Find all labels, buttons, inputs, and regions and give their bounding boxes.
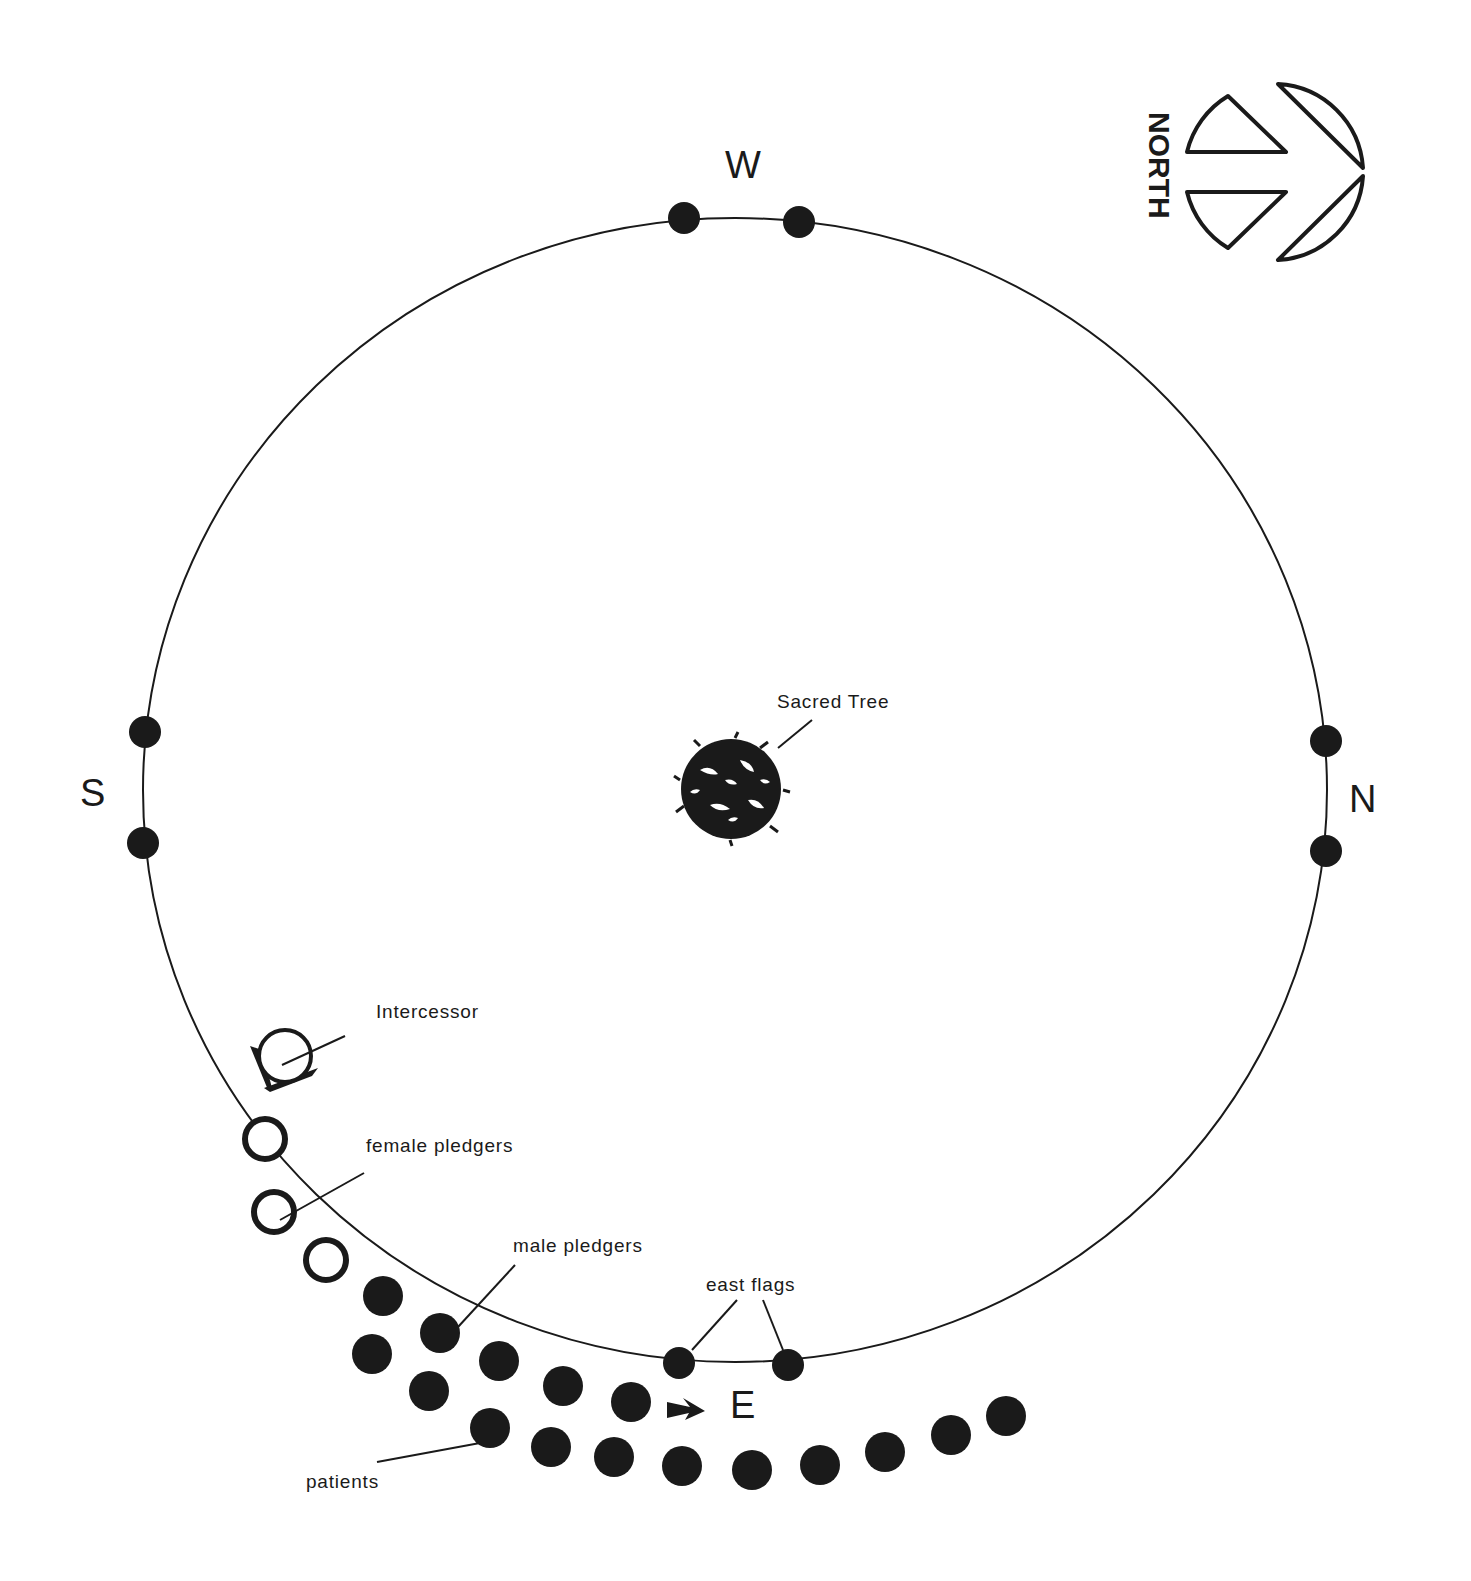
direction-north: N <box>1349 778 1376 820</box>
north-arrow-icon <box>1187 84 1363 260</box>
east-flags-label: east flags <box>706 1274 795 1295</box>
direction-arrow-icon <box>667 1398 705 1420</box>
intercessor-icon <box>250 1030 318 1092</box>
male-pledger <box>363 1276 403 1316</box>
female-pledgers-label: female pledgers <box>366 1135 513 1156</box>
flag-east-2 <box>772 1349 804 1381</box>
patient <box>931 1415 971 1455</box>
flag-east-1 <box>663 1347 695 1379</box>
sacred-tree-leader <box>778 720 812 748</box>
patient <box>732 1450 772 1490</box>
flag-west-2 <box>783 206 815 238</box>
ceremony-diagram: NORTH W S N E <box>0 0 1471 1581</box>
flag-north-1 <box>1310 725 1342 757</box>
flag-west-1 <box>668 202 700 234</box>
patient <box>470 1408 510 1448</box>
female-pledger <box>254 1192 294 1232</box>
patient <box>662 1446 702 1486</box>
direction-south: S <box>80 772 105 814</box>
sacred-tree-label: Sacred Tree <box>777 691 889 712</box>
patient <box>594 1437 634 1477</box>
flag-south-1 <box>129 716 161 748</box>
male-pledger <box>352 1334 392 1374</box>
flag-south-2 <box>127 827 159 859</box>
patient <box>800 1445 840 1485</box>
patient <box>865 1432 905 1472</box>
patient <box>986 1396 1026 1436</box>
male-pledger <box>409 1371 449 1411</box>
female-pledger <box>245 1119 285 1159</box>
male-pledgers-label: male pledgers <box>513 1235 643 1256</box>
female-pledgers <box>245 1119 346 1280</box>
patients-leader <box>377 1443 480 1462</box>
male-pledger <box>543 1366 583 1406</box>
east-flags-leader-1 <box>692 1300 737 1350</box>
direction-west: W <box>725 144 761 186</box>
flag-north-2 <box>1310 835 1342 867</box>
male-pledger <box>611 1382 651 1422</box>
compass-label: NORTH <box>1143 112 1176 219</box>
patients-label: patients <box>306 1471 379 1492</box>
female-pledger <box>306 1240 346 1280</box>
direction-east: E <box>730 1384 755 1426</box>
male-pledger <box>479 1341 519 1381</box>
female-pledgers-leader <box>280 1173 364 1220</box>
intercessor-label: Intercessor <box>376 1001 479 1022</box>
male-pledger <box>420 1313 460 1353</box>
east-flags-leader-2 <box>763 1300 783 1350</box>
sacred-tree-icon <box>674 732 790 846</box>
patient <box>531 1427 571 1467</box>
